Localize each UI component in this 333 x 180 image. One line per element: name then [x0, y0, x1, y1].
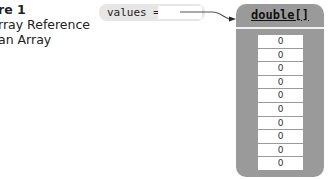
array-cell: 0	[258, 157, 303, 170]
array-cell: 0	[258, 130, 303, 143]
header-separator	[236, 27, 324, 29]
array-cell: 0	[258, 117, 303, 130]
array-cells: 0 0 0 0 0 0 0 0 0 0	[258, 35, 303, 171]
array-cell: 0	[258, 103, 303, 116]
array-cell: 0	[258, 62, 303, 75]
array-type-label: double[]	[236, 8, 324, 22]
array-cell: 0	[258, 35, 303, 48]
array-cell: 0	[258, 76, 303, 89]
array-cell: 0	[258, 89, 303, 102]
array-cell: 0	[258, 49, 303, 62]
array-cell: 0	[258, 144, 303, 157]
